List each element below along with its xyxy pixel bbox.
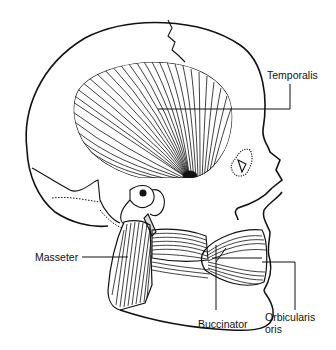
label-temporalis: Temporalis bbox=[267, 69, 318, 81]
label-orbicularis-line2: oris bbox=[265, 323, 315, 335]
masseter-muscle bbox=[108, 221, 152, 310]
buccinator-muscle bbox=[152, 229, 210, 278]
label-orbicularis-oris: Orbicularis oris bbox=[265, 311, 315, 335]
label-buccinator: Buccinator bbox=[198, 318, 248, 330]
temporalis-muscle bbox=[70, 60, 232, 182]
label-orbicularis-line1: Orbicularis bbox=[265, 311, 315, 323]
skull-muscle-diagram bbox=[0, 0, 336, 350]
orbicularis-oris-muscle bbox=[201, 230, 267, 285]
label-masseter: Masseter bbox=[35, 251, 78, 263]
zygoma-bone bbox=[231, 149, 252, 176]
